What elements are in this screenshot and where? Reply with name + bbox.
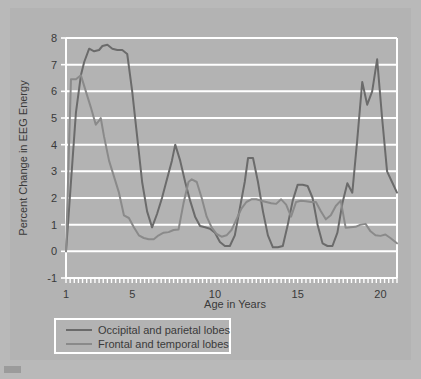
y-tick-label: -1 xyxy=(47,272,57,284)
legend-label-frontal-temporal: Frontal and temporal lobes xyxy=(98,338,229,350)
x-tick-label: 15 xyxy=(292,288,304,300)
x-tick-label: 5 xyxy=(129,288,135,300)
y-tick-label: 5 xyxy=(51,112,57,124)
legend-label-occipital-parietal: Occipital and parietal lobes xyxy=(98,324,231,336)
y-axis-title: Percent Change in EEG Energy xyxy=(17,80,29,236)
y-tick-label: 7 xyxy=(51,59,57,71)
legend: Occipital and parietal lobes Frontal and… xyxy=(55,319,231,353)
y-tick-label: 4 xyxy=(51,139,57,151)
figure-panel: -1012345678 15101520 Percent Change in E… xyxy=(10,8,411,360)
y-tick-label: 6 xyxy=(51,85,57,97)
y-tick-label: 2 xyxy=(51,192,57,204)
y-tick-label: 0 xyxy=(51,245,57,257)
scan-artifact-mark xyxy=(4,366,21,373)
x-axis-title: Age in Years xyxy=(204,298,266,310)
y-tick-label: 1 xyxy=(51,219,57,231)
eeg-line-chart: -1012345678 15101520 Percent Change in E… xyxy=(10,8,411,360)
y-tick-label: 3 xyxy=(51,165,57,177)
y-tick-label: 8 xyxy=(51,32,57,44)
grid-lines xyxy=(66,38,397,251)
series-line-occipital-parietal xyxy=(66,45,397,252)
x-tick-label: 1 xyxy=(63,288,69,300)
data-series-lines xyxy=(66,45,397,252)
x-tick-label: 20 xyxy=(374,288,386,300)
y-axis-tick-labels: -1012345678 xyxy=(47,32,57,284)
